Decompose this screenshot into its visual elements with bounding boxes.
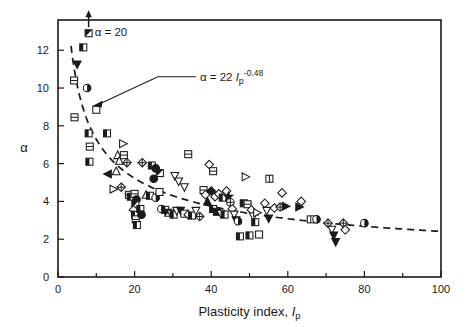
y-tick-label: 6 xyxy=(43,158,49,170)
chart-figure: 020406080100024681012 α = 20α = 22 Ip-0.… xyxy=(0,0,467,327)
data-point xyxy=(117,183,126,192)
x-tick-label: 80 xyxy=(358,283,370,295)
data-point xyxy=(73,61,81,69)
data-point xyxy=(185,151,192,158)
y-tick-label: 8 xyxy=(43,120,49,132)
data-point xyxy=(234,217,242,225)
y-tick-label: 4 xyxy=(43,195,49,207)
data-point xyxy=(120,152,127,159)
data-point xyxy=(86,143,93,150)
data-point xyxy=(361,219,369,227)
alpha-20-label: α = 20 xyxy=(95,26,128,38)
data-point xyxy=(133,222,140,229)
data-point xyxy=(86,158,93,165)
data-point xyxy=(138,211,146,219)
equation-leader-line xyxy=(92,77,195,108)
data-point xyxy=(83,84,91,92)
data-point xyxy=(256,231,263,238)
data-point xyxy=(156,170,163,177)
data-point xyxy=(242,173,250,181)
equation-label: α = 22 Ip-0.48 xyxy=(200,68,264,86)
data-point xyxy=(85,130,92,137)
x-tick-label: 0 xyxy=(55,283,61,295)
data-point xyxy=(313,216,321,224)
alpha-20-datum xyxy=(85,10,92,37)
data-point xyxy=(210,168,217,175)
data-point xyxy=(71,77,78,84)
data-point xyxy=(104,130,111,137)
data-point xyxy=(123,158,132,167)
scatter-plot: 020406080100024681012 α = 20α = 22 Ip-0.… xyxy=(0,0,467,327)
data-point xyxy=(263,207,271,215)
x-tick-label: 60 xyxy=(282,283,294,295)
data-point xyxy=(93,106,100,113)
data-point xyxy=(112,167,120,175)
axes-layer: 020406080100024681012 xyxy=(37,20,450,295)
data-point xyxy=(104,170,112,178)
y-tick-label: 0 xyxy=(43,271,49,283)
data-point xyxy=(150,175,158,183)
data-point xyxy=(332,239,340,247)
data-point xyxy=(266,175,273,182)
data-point xyxy=(282,202,290,210)
y-axis-title: α xyxy=(20,140,28,155)
x-axis-title: Plasticity index, Ip xyxy=(198,304,300,321)
y-tick-label: 2 xyxy=(43,233,49,245)
annotations-layer: α = 20α = 22 Ip-0.48 xyxy=(85,10,263,107)
data-point xyxy=(71,114,78,121)
data-point xyxy=(138,158,147,167)
data-point xyxy=(265,215,273,223)
data-point xyxy=(261,199,270,208)
data-point xyxy=(236,233,243,240)
y-tick-label: 10 xyxy=(37,82,49,94)
x-tick-label: 20 xyxy=(128,283,140,295)
x-tick-label: 100 xyxy=(432,283,450,295)
data-point xyxy=(80,44,87,51)
data-point xyxy=(120,140,128,148)
data-point xyxy=(278,189,287,198)
x-tick-label: 40 xyxy=(205,283,217,295)
data-point xyxy=(156,188,163,195)
data-point xyxy=(246,232,253,239)
data-point xyxy=(110,185,118,193)
data-point xyxy=(180,184,188,192)
data-point xyxy=(221,211,228,218)
y-tick-label: 12 xyxy=(37,44,49,56)
data-point xyxy=(252,219,259,226)
